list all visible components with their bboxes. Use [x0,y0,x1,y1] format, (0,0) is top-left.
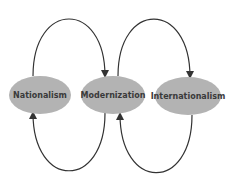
arrow-internationalism-to-modernization [120,114,192,173]
node-label: Nationalism [13,91,67,100]
cycle-diagram: Nationalism Modernization Internationali… [0,0,230,183]
arrow-modernization-to-nationalism [33,113,105,171]
arrow-nationalism-to-modernization [33,19,105,76]
node-modernization: Modernization [81,76,146,114]
node-label: Internationalism [151,92,226,101]
node-label: Modernization [81,91,146,100]
node-internationalism: Internationalism [151,77,226,115]
node-nationalism: Nationalism [9,76,71,114]
arrow-modernization-to-internationalism [118,19,190,77]
